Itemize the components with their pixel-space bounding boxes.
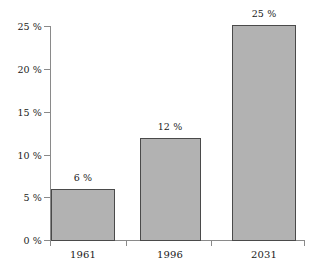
y-axis-tick-25 [44,26,50,27]
y-axis-label-15: 15 % [17,107,42,118]
y-axis-label-10: 10 % [17,150,42,161]
bar-chart: 25 % 20 % 15 % 10 % 5 % 0 % 6 % 1961 12 … [0,0,316,269]
bar-value-label-2031: 25 % [252,8,277,19]
bar-value-label-1961: 6 % [74,172,92,183]
y-axis-tick-5 [44,197,50,198]
y-axis-label-0: 0 % [24,235,42,246]
x-axis-tick-sep-2 [211,240,212,246]
y-axis-label-20: 20 % [17,64,42,75]
bar-1996 [140,138,201,241]
x-axis-category-1996: 1996 [157,249,183,260]
bar-2031 [232,25,296,241]
bar-1961 [51,189,115,241]
x-axis-category-2031: 2031 [251,249,277,260]
y-axis-label-25: 25 % [17,21,42,32]
x-axis-tick-sep-1 [126,240,127,246]
y-axis-tick-20 [44,69,50,70]
x-axis-category-1961: 1961 [70,249,96,260]
bar-value-label-1996: 12 % [158,121,183,132]
x-axis-tick-end [304,240,305,246]
y-axis-tick-15 [44,112,50,113]
y-axis-tick-10 [44,155,50,156]
y-axis-label-5: 5 % [24,192,42,203]
